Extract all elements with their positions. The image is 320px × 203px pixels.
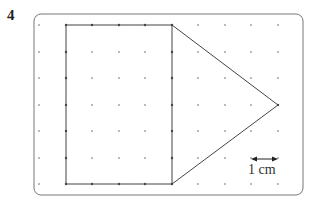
grid-dot (91, 77, 93, 79)
grid-dot (250, 24, 252, 26)
grid-dot (118, 130, 120, 132)
grid-dot (277, 51, 279, 53)
grid-dot (38, 183, 40, 185)
grid-dot (197, 51, 199, 53)
grid-dot (197, 24, 199, 26)
grid-dot (38, 130, 40, 132)
grid-dot (224, 183, 226, 185)
grid-dot (38, 51, 40, 53)
grid-dot (197, 183, 199, 185)
grid-dot (250, 183, 252, 185)
grid-dot (38, 24, 40, 26)
grid-dot (91, 157, 93, 159)
grid-dot (38, 104, 40, 106)
grid-dot (197, 130, 199, 132)
grid-dot (250, 77, 252, 79)
grid-dot (250, 130, 252, 132)
grid-dot (224, 104, 226, 106)
grid-dot (250, 157, 252, 159)
grid-dot (144, 104, 146, 106)
grid-dot (38, 77, 40, 79)
grid-dot (118, 104, 120, 106)
grid-dot (197, 77, 199, 79)
grid-dot (144, 157, 146, 159)
grid-dot (197, 104, 199, 106)
grid-dot (91, 130, 93, 132)
grid-dot (224, 77, 226, 79)
scale-arrow-icon (251, 157, 278, 162)
grid-dot (250, 51, 252, 53)
scale-label: 1 cm (248, 162, 276, 178)
grid-dot (224, 130, 226, 132)
grid-dot (118, 77, 120, 79)
grid-dot (277, 157, 279, 159)
grid-dot (224, 157, 226, 159)
grid-dot (224, 24, 226, 26)
grid-dot (118, 157, 120, 159)
grid-dot (118, 51, 120, 53)
grid-dot (91, 51, 93, 53)
grid-dot (144, 130, 146, 132)
grid-dot (277, 183, 279, 185)
grid-dot (277, 24, 279, 26)
grid-dot (224, 51, 226, 53)
grid-dot (277, 77, 279, 79)
grid-dots (38, 24, 279, 185)
compound-shape (66, 25, 278, 184)
grid-dot (197, 157, 199, 159)
grid-dot (38, 157, 40, 159)
grid-dot (144, 77, 146, 79)
grid-dot (250, 104, 252, 106)
grid-dot (277, 130, 279, 132)
grid-dot (144, 51, 146, 53)
grid-dot (91, 104, 93, 106)
